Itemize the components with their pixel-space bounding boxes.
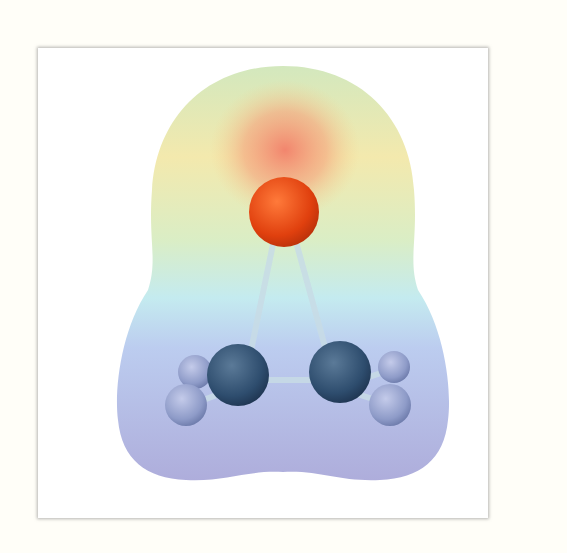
hydrogen-atom (178, 355, 212, 389)
carbon-atom (309, 341, 371, 403)
hydrogen-atom (369, 384, 411, 426)
molecule-figure (0, 0, 567, 553)
hydrogen-atom (378, 351, 410, 383)
carbon-atom (207, 344, 269, 406)
oxygen-atom (249, 177, 319, 247)
hydrogen-atom (165, 384, 207, 426)
